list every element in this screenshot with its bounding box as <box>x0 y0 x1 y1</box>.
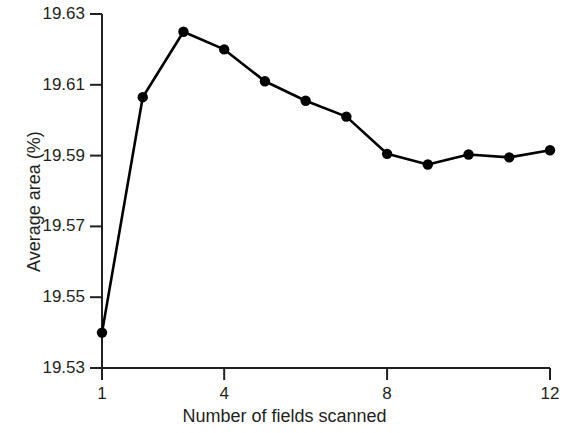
data-point-marker <box>260 76 270 86</box>
data-point-marker <box>219 44 229 54</box>
x-axis-ticks <box>102 368 550 380</box>
data-series-line <box>102 32 550 333</box>
x-axis-tick-label: 12 <box>541 384 560 404</box>
x-axis-tick-label: 4 <box>219 384 228 404</box>
x-axis-title: Number of fields scanned <box>0 406 569 427</box>
data-point-marker <box>138 92 148 102</box>
data-point-marker <box>504 152 514 162</box>
data-point-marker <box>178 27 188 37</box>
y-axis-tick-label: 19.53 <box>0 358 85 378</box>
data-point-marker <box>300 96 310 106</box>
data-point-markers <box>97 27 555 338</box>
data-point-marker <box>341 111 351 121</box>
chart-figure: 19.5319.5519.5719.5919.6119.63 14812 Ave… <box>0 0 569 433</box>
y-axis-tick-label: 19.55 <box>0 287 85 307</box>
y-axis-tick-label: 19.61 <box>0 75 85 95</box>
data-point-marker <box>382 149 392 159</box>
y-axis-title: Average area (%) <box>24 131 45 272</box>
line-chart-plot <box>0 0 569 433</box>
x-axis-tick-label: 1 <box>97 384 106 404</box>
data-point-marker <box>463 149 473 159</box>
y-axis-tick-label: 19.63 <box>0 4 85 24</box>
y-axis-ticks <box>90 14 102 368</box>
x-axis-tick-label: 8 <box>382 384 391 404</box>
data-point-marker <box>545 145 555 155</box>
data-point-marker <box>423 159 433 169</box>
data-point-marker <box>97 327 107 337</box>
